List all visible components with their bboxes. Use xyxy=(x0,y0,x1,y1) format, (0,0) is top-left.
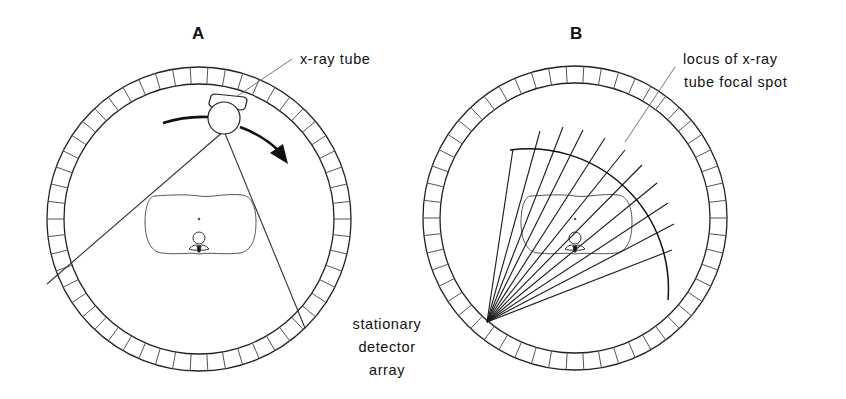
locus-leader-line xyxy=(625,67,675,142)
tube-leader-line xyxy=(236,59,292,97)
detector-label-line1: stationary xyxy=(353,316,422,332)
beam-edge-right xyxy=(224,131,305,328)
fan-beam-rays xyxy=(487,127,674,322)
spine-icon-a xyxy=(189,232,209,252)
panel-a-letter: A xyxy=(192,24,204,43)
isocenter-dot-a xyxy=(198,218,201,221)
panel-b-letter: B xyxy=(570,24,582,43)
detector-label-line2: detector xyxy=(358,339,415,355)
stationary-detector-array-label: stationary detector array xyxy=(353,316,422,378)
locus-label-line1: locus of x-ray xyxy=(683,51,778,67)
isocenter-dot-b xyxy=(574,218,577,221)
spine-icon-b xyxy=(565,232,585,252)
beam-edge-left xyxy=(47,131,224,284)
x-ray-tube-icon xyxy=(208,102,240,134)
panel-a: A x-ray tube xyxy=(47,24,370,371)
focal-spot-locus-arc xyxy=(510,149,668,300)
detector-label-line3: array xyxy=(369,362,405,378)
panel-b: B locus of x-ray tube focal spot xyxy=(423,24,787,370)
ct-scanner-diagram: A x-ray tube B xyxy=(0,0,846,399)
x-ray-tube-label: x-ray tube xyxy=(300,51,370,67)
rotation-arrow-body xyxy=(240,127,278,150)
locus-label-line2: tube focal spot xyxy=(684,74,787,90)
rotation-arrow-tail xyxy=(163,117,208,123)
